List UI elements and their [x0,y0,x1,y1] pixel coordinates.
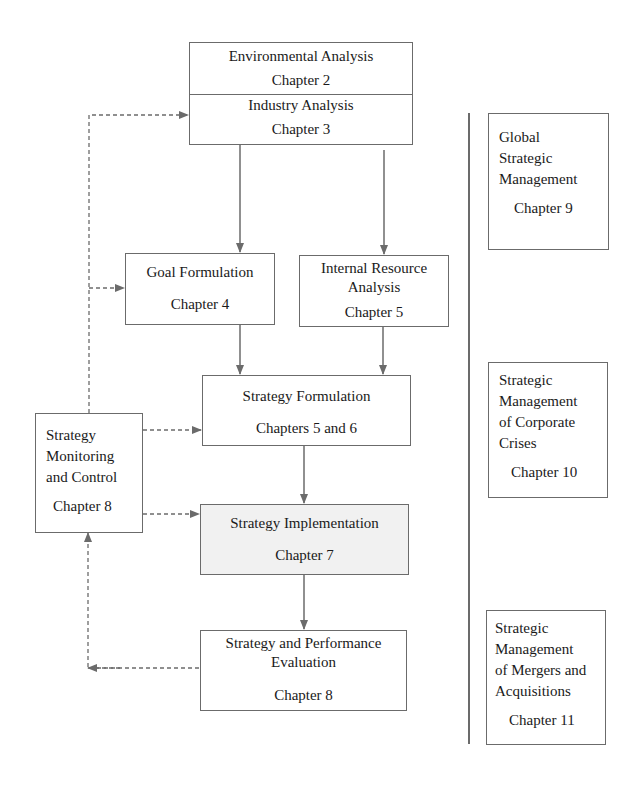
side-topic-2-line4: Crises [499,433,607,454]
strategy-formulation-title: Strategy Formulation [203,387,410,406]
internal-resource-chapter: Chapter 5 [300,303,448,322]
industry-analysis-section: Industry Analysis Chapter 3 [190,95,412,139]
side-topic-1-line1: Global [499,127,608,148]
strategy-implementation-chapter: Chapter 7 [201,546,408,565]
strategy-evaluation-title-line1: Strategy and Performance [201,634,406,653]
side-topic-2-chapter: Chapter 10 [499,463,607,482]
strategy-monitoring-chapter: Chapter 8 [46,497,142,516]
side-topic-3-line2: Management [495,639,605,660]
environmental-analysis-title: Environmental Analysis [190,47,412,66]
strategy-monitoring-title-line2: Monitoring [46,446,142,467]
industry-analysis-chapter: Chapter 3 [190,120,412,139]
dashed-evaluation-to-monitoring [88,533,199,668]
goal-formulation-title: Goal Formulation [126,263,274,282]
strategy-evaluation-box: Strategy and Performance Evaluation Chap… [200,630,407,711]
side-topic-3-chapter: Chapter 11 [495,711,605,730]
side-topic-3-line3: of Mergers and [495,660,605,681]
side-topic-mergers-acquisitions: Strategic Management of Mergers and Acqu… [486,610,606,745]
goal-formulation-box: Goal Formulation Chapter 4 [125,253,275,325]
side-topic-global-strategic-management: Global Strategic Management Chapter 9 [488,113,609,250]
side-topic-2-line2: Management [499,391,607,412]
strategy-formulation-chapter: Chapters 5 and 6 [203,419,410,438]
environmental-industry-box: Environmental Analysis Chapter 2 Industr… [189,42,413,145]
side-topic-1-line2: Strategic [499,148,608,169]
strategy-formulation-box: Strategy Formulation Chapters 5 and 6 [202,375,411,446]
strategy-monitoring-control-box: Strategy Monitoring and Control Chapter … [35,413,143,533]
side-topic-1-chapter: Chapter 9 [499,199,608,218]
industry-analysis-title: Industry Analysis [190,96,412,115]
internal-resource-analysis-box: Internal Resource Analysis Chapter 5 [299,255,449,327]
internal-resource-title-line1: Internal Resource [300,259,448,278]
section-divider [468,113,470,744]
strategy-monitoring-title-line1: Strategy [46,425,142,446]
side-topic-2-line1: Strategic [499,370,607,391]
strategy-evaluation-title-line2: Evaluation [201,653,406,672]
side-topic-2-line3: of Corporate [499,412,607,433]
strategy-monitoring-title-line3: and Control [46,467,142,488]
environmental-analysis-chapter: Chapter 2 [190,71,412,90]
side-topic-corporate-crises: Strategic Management of Corporate Crises… [488,362,608,498]
side-topic-3-line1: Strategic [495,618,605,639]
strategy-implementation-box: Strategy Implementation Chapter 7 [200,504,409,575]
side-topic-3-line4: Acquisitions [495,681,605,702]
side-topic-1-line3: Management [499,169,608,190]
internal-resource-title-line2: Analysis [300,278,448,297]
environmental-analysis-section: Environmental Analysis Chapter 2 [190,43,412,95]
strategy-implementation-title: Strategy Implementation [201,514,408,533]
strategy-evaluation-chapter: Chapter 8 [201,686,406,705]
goal-formulation-chapter: Chapter 4 [126,295,274,314]
